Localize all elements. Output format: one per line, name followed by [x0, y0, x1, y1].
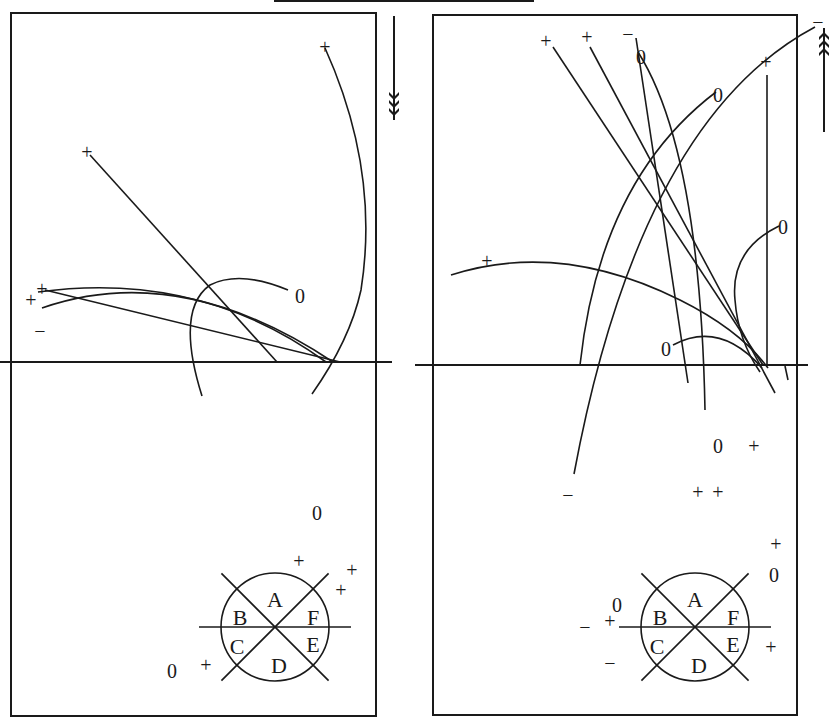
diagram-canvas: ++++−00+++0+ABCDEF ++−00+−0+00+++−+00−+−…	[0, 0, 838, 724]
sector-label-a: A	[687, 587, 703, 612]
sector-label-d: D	[271, 653, 287, 678]
trace-line	[636, 38, 688, 383]
sector-circle-legend: ABCDEF	[199, 573, 351, 681]
left-panel: ++++−00+++0+ABCDEF	[0, 13, 399, 716]
sector-label-e: E	[726, 632, 739, 657]
sign-label: 0	[778, 216, 788, 238]
sector-label-e: E	[306, 632, 319, 657]
sign-label: +	[604, 610, 615, 632]
sign-label: 0	[713, 84, 723, 106]
sign-label: 0	[295, 285, 305, 307]
sign-label: +	[36, 278, 47, 300]
sign-label: +	[200, 654, 211, 676]
sign-label: +	[748, 435, 759, 457]
sign-label: 0	[769, 564, 779, 586]
sign-label: +	[25, 289, 36, 311]
trace-line	[553, 47, 763, 365]
right-panel: ++−00+−0+00+++−+00−+−+ABCDEF	[415, 11, 829, 715]
trace-line	[785, 366, 788, 380]
sign-label: +	[481, 250, 492, 272]
trace-line	[638, 52, 705, 410]
sector-label-f: F	[307, 605, 319, 630]
sign-label: +	[581, 26, 592, 48]
sector-label-b: B	[233, 605, 248, 630]
sign-label: 0	[661, 338, 671, 360]
sector-label-b: B	[653, 605, 668, 630]
sign-label: 0	[312, 502, 322, 524]
trace-line	[312, 48, 366, 394]
sign-label: 0	[167, 660, 177, 682]
sign-label: 0	[713, 435, 723, 457]
sector-circle-legend: ABCDEF	[619, 573, 771, 681]
sign-label: +	[540, 30, 551, 52]
sign-label: +	[770, 533, 781, 555]
trace-line	[42, 293, 333, 362]
sign-label: −	[622, 23, 633, 45]
sector-label-f: F	[727, 605, 739, 630]
sign-label: −	[562, 484, 573, 506]
sign-label: +	[293, 550, 304, 572]
sign-label: −	[34, 320, 45, 342]
sign-label: +	[335, 579, 346, 601]
trace-line	[90, 155, 277, 362]
sector-label-a: A	[267, 587, 283, 612]
sign-label: −	[579, 616, 590, 638]
sector-label-c: C	[230, 634, 245, 659]
arrow-up-icon	[819, 28, 829, 132]
trace-line	[451, 262, 768, 368]
trace-line	[580, 92, 716, 365]
sign-label: +	[765, 636, 776, 658]
sign-label: +	[760, 51, 771, 73]
sign-label: −	[604, 652, 615, 674]
arrow-down-icon	[389, 16, 399, 120]
sector-label-c: C	[650, 634, 665, 659]
sign-label: +	[319, 36, 330, 58]
sign-label: 0	[636, 46, 646, 68]
sign-label: +	[346, 559, 357, 581]
trace-line	[735, 226, 779, 372]
sign-label: +	[712, 481, 723, 503]
sign-label: +	[81, 141, 92, 163]
sector-label-d: D	[691, 653, 707, 678]
sign-label: +	[692, 481, 703, 503]
sign-label: −	[812, 11, 823, 33]
